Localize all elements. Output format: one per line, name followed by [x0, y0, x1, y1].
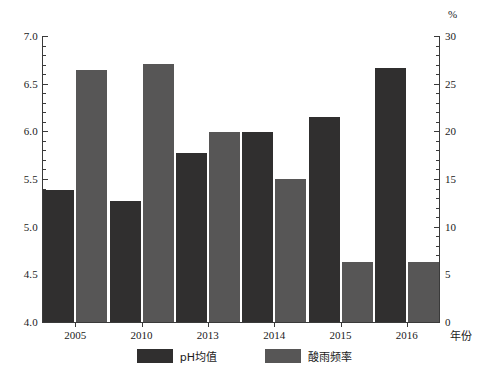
left-axis-minor-tick [43, 122, 46, 123]
right-axis-tick-label: 25 [445, 78, 456, 90]
left-axis-tick-label: 4.0 [24, 316, 38, 328]
left-axis-minor-tick [43, 189, 46, 190]
x-axis-tick [407, 323, 408, 327]
right-axis-minor-tick [436, 141, 439, 142]
left-axis-minor-tick [43, 103, 46, 104]
plot-area: 4.04.55.05.56.06.57.0 051015202530 20052… [42, 36, 440, 322]
bar [209, 132, 240, 322]
left-axis-tick-label: 7.0 [24, 30, 38, 42]
left-axis-minor-tick [43, 112, 46, 113]
x-axis-title: 年份 [450, 327, 472, 343]
legend-swatch [137, 349, 173, 363]
right-axis-minor-tick [436, 160, 439, 161]
right-axis-tick-label: 15 [445, 173, 456, 185]
legend-item[interactable]: pH均值 [137, 348, 217, 364]
right-axis-tick [434, 84, 439, 85]
right-axis-tick [434, 36, 439, 37]
right-axis-unit-label: % [448, 8, 457, 20]
left-axis-minor-tick [43, 55, 46, 56]
left-axis-minor-tick [43, 169, 46, 170]
left-axis-minor-tick [43, 74, 46, 75]
right-axis-tick [434, 179, 439, 180]
legend-label: pH均值 [180, 348, 217, 364]
right-axis-minor-tick [436, 208, 439, 209]
bar [275, 179, 306, 322]
chart-legend: pH均值酸雨频率 [0, 348, 489, 364]
bar [242, 132, 273, 322]
chart-figure: % 4.04.55.05.56.06.57.0 051015202530 200… [0, 0, 489, 379]
left-axis-tick [43, 179, 48, 180]
left-axis-tick-label: 6.0 [24, 125, 38, 137]
x-axis-tick [274, 323, 275, 327]
bar [342, 262, 373, 322]
right-axis-minor-tick [436, 103, 439, 104]
x-axis-tick-label: 2015 [330, 329, 352, 341]
legend-swatch [265, 349, 301, 363]
right-axis-minor-tick [436, 169, 439, 170]
left-axis-tick-label: 6.5 [24, 78, 38, 90]
left-axis-minor-tick [43, 46, 46, 47]
x-axis-tick-label: 2013 [197, 329, 219, 341]
x-axis-tick [341, 323, 342, 327]
left-axis-minor-tick [43, 93, 46, 94]
left-axis-minor-tick [43, 160, 46, 161]
right-axis-minor-tick [436, 112, 439, 113]
right-axis-tick-label: 5 [445, 268, 451, 280]
right-axis-minor-tick [436, 217, 439, 218]
right-axis-tick-label: 10 [445, 221, 456, 233]
right-axis-minor-tick [436, 236, 439, 237]
bar [309, 117, 340, 322]
left-axis-tick [43, 84, 48, 85]
right-axis-tick [434, 227, 439, 228]
right-axis-tick-label: 20 [445, 125, 456, 137]
bar [408, 262, 439, 322]
bar [375, 68, 406, 322]
bottom-axis-line [42, 322, 440, 323]
x-axis-tick [75, 323, 76, 327]
legend-label: 酸雨频率 [308, 348, 352, 364]
right-axis-minor-tick [436, 65, 439, 66]
right-axis-minor-tick [436, 46, 439, 47]
x-axis-tick-label: 2005 [64, 329, 86, 341]
left-axis-tick-label: 5.0 [24, 221, 38, 233]
left-axis-minor-tick [43, 150, 46, 151]
right-axis-tick [434, 131, 439, 132]
right-axis-minor-tick [436, 55, 439, 56]
bar [176, 153, 207, 322]
right-axis-tick-label: 30 [445, 30, 456, 42]
x-axis-tick [142, 323, 143, 327]
left-axis-tick-label: 5.5 [24, 173, 38, 185]
left-axis-minor-tick [43, 65, 46, 66]
x-axis-tick-label: 2010 [131, 329, 153, 341]
legend-item[interactable]: 酸雨频率 [265, 348, 352, 364]
right-axis-minor-tick [436, 198, 439, 199]
left-axis-tick [43, 322, 48, 323]
right-axis-minor-tick [436, 189, 439, 190]
bar [76, 70, 107, 322]
right-axis-minor-tick [436, 150, 439, 151]
right-axis-minor-tick [436, 122, 439, 123]
left-axis-tick-label: 4.5 [24, 268, 38, 280]
x-axis-tick-label: 2016 [396, 329, 418, 341]
bar [110, 201, 141, 322]
x-axis-tick-label: 2014 [263, 329, 285, 341]
bar [143, 64, 174, 322]
right-axis-minor-tick [436, 246, 439, 247]
bar [43, 190, 74, 322]
left-axis-tick [43, 131, 48, 132]
right-axis-tick [434, 322, 439, 323]
right-axis-minor-tick [436, 255, 439, 256]
left-axis-minor-tick [43, 141, 46, 142]
right-axis-minor-tick [436, 93, 439, 94]
left-axis-tick [43, 36, 48, 37]
x-axis-tick [208, 323, 209, 327]
right-axis-line [439, 36, 440, 323]
right-axis-minor-tick [436, 74, 439, 75]
